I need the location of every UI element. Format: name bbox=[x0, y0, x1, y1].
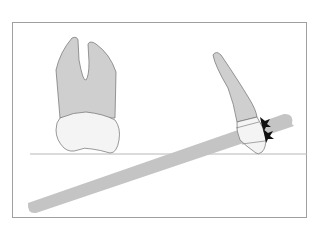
molar-tooth bbox=[56, 37, 120, 153]
figure-canvas bbox=[0, 0, 319, 229]
